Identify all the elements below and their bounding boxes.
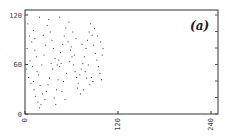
x-tick-label: 240 [207, 118, 215, 131]
data-point [45, 45, 46, 46]
data-point [69, 61, 70, 62]
data-point [60, 52, 61, 53]
data-point [43, 35, 44, 36]
data-point [32, 66, 33, 67]
data-point [101, 79, 102, 80]
data-point [44, 55, 45, 56]
data-point [88, 65, 89, 66]
data-point [46, 91, 47, 92]
data-point [75, 71, 76, 72]
data-point [82, 63, 83, 64]
data-point [30, 60, 31, 61]
data-point [72, 32, 73, 33]
data-point [51, 40, 52, 41]
data-point [98, 66, 99, 67]
data-point [103, 48, 104, 49]
data-point [65, 27, 66, 28]
data-point [64, 36, 65, 37]
data-point [77, 88, 78, 89]
data-point [97, 36, 98, 37]
scatter-chart: 060120 0120240 (a) [0, 0, 225, 137]
data-point [34, 38, 35, 39]
data-point [51, 63, 52, 64]
data-point [39, 107, 40, 108]
data-point [52, 69, 53, 70]
data-point [90, 23, 91, 24]
data-point [53, 48, 54, 49]
data-point [63, 81, 64, 82]
data-point [72, 56, 73, 57]
data-point [85, 71, 86, 72]
y-tick-label: 0 [18, 111, 22, 119]
data-point [27, 48, 28, 49]
data-point [41, 104, 42, 105]
data-point [42, 93, 43, 94]
data-point [68, 22, 69, 23]
data-point [68, 41, 69, 42]
data-point [82, 44, 83, 45]
data-point [80, 93, 81, 94]
data-point [31, 41, 32, 42]
data-point [100, 41, 101, 42]
data-point [39, 17, 40, 18]
data-point [59, 66, 60, 67]
data-point [99, 73, 100, 74]
x-tick-label: 120 [114, 118, 122, 131]
data-point [48, 84, 49, 85]
data-point [44, 99, 45, 100]
data-point [92, 35, 93, 36]
data-point [86, 48, 87, 49]
data-point [57, 65, 58, 66]
data-point [84, 56, 85, 57]
data-point [34, 89, 35, 90]
data-point [37, 71, 38, 72]
data-point [40, 85, 41, 86]
data-point [29, 36, 30, 37]
data-point [56, 89, 57, 90]
data-point [37, 102, 38, 103]
data-point [94, 28, 95, 29]
data-point [59, 17, 60, 18]
data-point [38, 74, 39, 75]
data-point [65, 99, 66, 100]
data-point [95, 53, 96, 54]
data-point [102, 55, 103, 56]
data-point [36, 56, 37, 57]
data-point [76, 77, 77, 78]
y-tick-label: 60 [14, 61, 22, 69]
data-point [93, 45, 94, 46]
data-point [41, 65, 42, 66]
data-point [58, 79, 59, 80]
data-point [58, 60, 59, 61]
data-point [86, 78, 87, 79]
data-point [74, 55, 75, 56]
data-point [75, 38, 76, 39]
data-point [91, 77, 92, 78]
data-point [34, 50, 35, 51]
data-point [35, 96, 36, 97]
data-point [33, 30, 34, 31]
data-point [26, 69, 27, 70]
data-point [89, 84, 90, 85]
data-point [83, 89, 84, 90]
y-tick-label: 120 [9, 12, 22, 20]
data-point [55, 58, 56, 59]
data-point [27, 23, 28, 24]
x-tick-label: 0 [21, 118, 29, 122]
data-point [48, 19, 49, 20]
data-point [30, 83, 31, 84]
data-point [55, 104, 56, 105]
data-point [71, 46, 72, 47]
data-point [70, 50, 71, 51]
data-point [33, 81, 34, 82]
data-point [78, 83, 79, 84]
data-point [79, 74, 80, 75]
data-point [47, 25, 48, 26]
data-point [54, 98, 55, 99]
panel-label: (a) [190, 19, 209, 33]
data-point [92, 81, 93, 82]
data-point [28, 77, 29, 78]
data-point [87, 40, 88, 41]
data-point [89, 32, 90, 33]
data-point [61, 91, 62, 92]
